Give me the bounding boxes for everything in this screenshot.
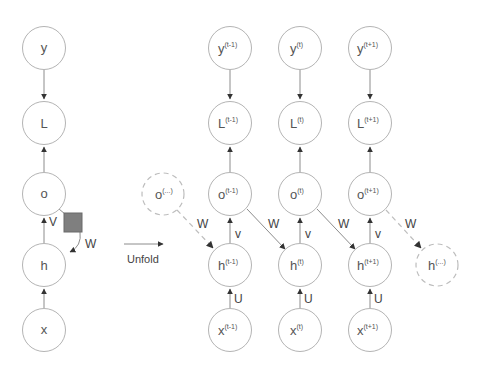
node-o-tm1: o(t-1)	[209, 173, 252, 216]
node-h-tp1: h(t+1)	[349, 244, 392, 287]
node-x-t: x(t)	[279, 309, 322, 352]
node-x: x	[23, 309, 66, 352]
u-label: U	[234, 292, 243, 306]
node-o-t: o(t)	[279, 173, 322, 216]
folded-graph: V W y L o h x	[23, 27, 98, 352]
node-h: h	[23, 244, 66, 287]
edge-label-W: W	[85, 237, 97, 251]
svg-text:x: x	[41, 322, 48, 337]
svg-text:y: y	[41, 40, 48, 55]
node-h-tm1: h(t-1)	[209, 244, 252, 287]
node-x-tp1: x(t+1)	[349, 309, 392, 352]
node-x-tm1: x(t-1)	[209, 309, 252, 352]
node-y-tm1: y(t-1)	[209, 27, 252, 70]
column-t: v U y(t) L(t) o(t) h(t) x(t)	[279, 27, 322, 352]
ghost-node-h-next: h(...)	[416, 244, 458, 286]
ghost-node-o-prev: o(...)	[142, 173, 184, 215]
unfold-label: Unfold	[127, 253, 159, 265]
w-label-2: W	[338, 217, 350, 231]
v-label: v	[375, 227, 381, 241]
node-L-tm1: L(t-1)	[209, 102, 252, 145]
node-L-tp1: L(t+1)	[349, 102, 392, 145]
edge-delay-to-h	[70, 232, 80, 252]
u-label: U	[374, 292, 383, 306]
v-label: v	[235, 227, 241, 241]
svg-text:L: L	[40, 116, 47, 131]
u-label: U	[304, 292, 313, 306]
w-label-3: W	[405, 217, 417, 231]
svg-text:h: h	[40, 258, 47, 273]
node-o: o	[23, 173, 66, 216]
node-y-tp1: y(t+1)	[349, 27, 392, 70]
node-y-t: y(t)	[279, 27, 322, 70]
column-t-plus-1: v U y(t+1) L(t+1) o(t+1) h(t+1) x(t+1)	[349, 27, 392, 352]
node-L: L	[23, 102, 66, 145]
rnn-unfold-diagram: V W y L o h x Unfold o	[0, 0, 478, 377]
svg-text:o: o	[40, 186, 47, 201]
w-label-1: W	[268, 217, 280, 231]
delay-square	[64, 213, 82, 232]
node-h-t: h(t)	[279, 244, 322, 287]
unfold-indicator: Unfold	[124, 244, 163, 265]
node-y: y	[23, 27, 66, 70]
unfolded-graph: o(...) W W W W h(...) v U y(t-1) L(t-1) …	[142, 27, 458, 352]
node-o-tp1: o(t+1)	[349, 173, 392, 216]
node-L-t: L(t)	[279, 102, 322, 145]
v-label: v	[305, 227, 311, 241]
w-label-0: W	[197, 217, 209, 231]
edge-label-V: V	[49, 215, 57, 229]
column-t-minus-1: v U y(t-1) L(t-1) o(t-1) h(t-1) x(t-1)	[209, 27, 252, 352]
